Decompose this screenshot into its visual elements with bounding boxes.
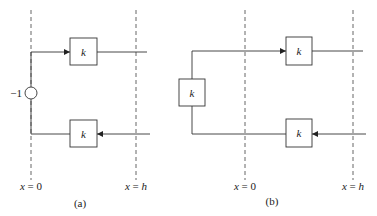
boundary-x0-label: x = 0 <box>233 180 257 192</box>
panel-a-caption: (a) <box>74 197 87 210</box>
diagram-canvas: k −1 k x = 0 x = h (a) k k k <box>0 0 377 216</box>
junction-gain-label: −1 <box>10 87 22 99</box>
boundary-x0-label: x = 0 <box>19 180 43 192</box>
panel-b-caption: (b) <box>266 195 279 208</box>
panel-a: k −1 k x = 0 x = h (a) <box>10 10 150 210</box>
boundary-xh-label: x = h <box>341 180 365 192</box>
minus-one-junction <box>25 87 37 99</box>
boundary-xh-label: x = h <box>124 180 148 192</box>
panel-b: k k k x = 0 x = h (b) <box>179 10 366 208</box>
